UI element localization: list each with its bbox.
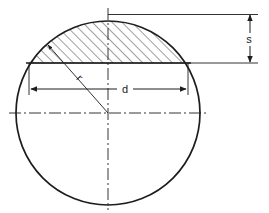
diagram-canvas: s d r <box>0 0 269 213</box>
dimension-label-s: s <box>246 33 252 45</box>
technical-diagram: s d r <box>0 0 269 213</box>
segment-hatch-fill <box>0 0 269 63</box>
dimension-label-d: d <box>122 83 128 95</box>
